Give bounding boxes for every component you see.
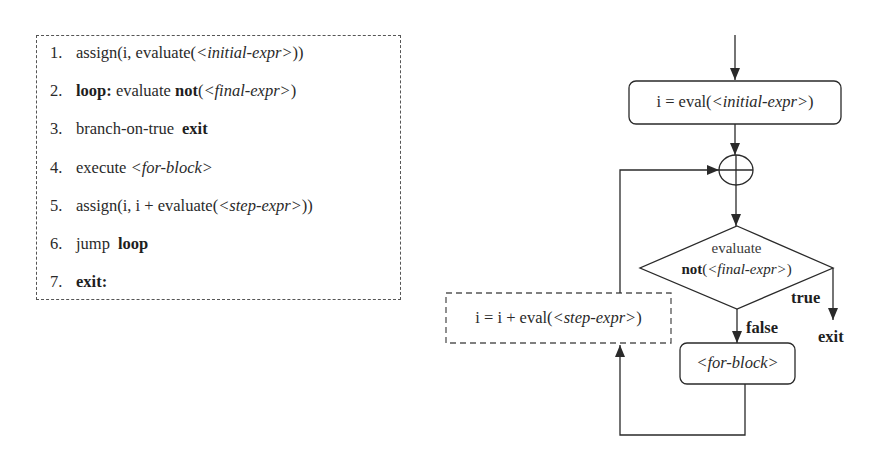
decision-line-2: not(<final-expr>) xyxy=(640,259,833,279)
step-node-text: ) xyxy=(636,308,642,327)
decision-text: ) xyxy=(787,261,792,277)
decision-placeholder: <final-expr> xyxy=(707,261,786,277)
step-node-placeholder: <step-expr> xyxy=(553,308,637,327)
body-node-placeholder: <for-block> xyxy=(696,353,778,372)
init-node-placeholder: <initial-expr> xyxy=(712,92,809,111)
exit-label: exit xyxy=(818,327,844,347)
decision-line-1: evaluate xyxy=(640,238,833,258)
init-node: i = eval(<initial-expr>) xyxy=(629,92,841,112)
edge-label-false: false xyxy=(746,318,778,338)
flowchart xyxy=(0,0,893,451)
edge-label-true: true xyxy=(791,288,820,308)
init-node-text: ) xyxy=(808,92,814,111)
step-node-text: i = i + eval( xyxy=(475,308,552,327)
step-node: i = i + eval(<step-expr>) xyxy=(446,308,671,328)
body-node: <for-block> xyxy=(680,353,795,373)
init-node-text: i = eval( xyxy=(656,92,711,111)
decision-keyword: not xyxy=(681,261,702,277)
